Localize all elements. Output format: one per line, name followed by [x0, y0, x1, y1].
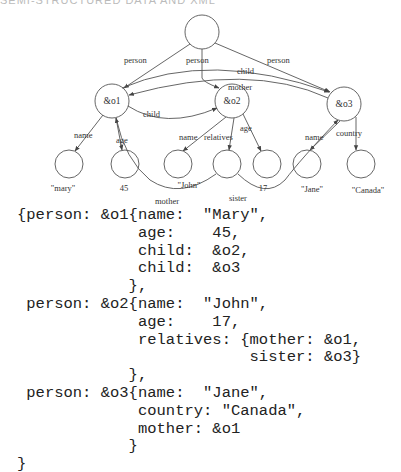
node-o1-label: &o1: [104, 96, 121, 106]
leaf-canada: [347, 150, 375, 178]
label-o2-age: age: [240, 123, 252, 133]
code-line: person: &o3{name: "Jane",: [17, 384, 268, 402]
label-root-o3: person: [267, 55, 290, 65]
label-child-o1-o2: child: [143, 109, 161, 119]
code-line: }: [17, 455, 26, 472]
edge-relatives-sister: [238, 120, 338, 189]
value-45: 45: [120, 183, 129, 193]
edge-o1-o2-child: [128, 106, 217, 119]
code-line: person: &o2{name: "John",: [17, 295, 268, 313]
value-canada: "Canada": [352, 185, 384, 195]
label-o3-name: name: [305, 132, 324, 142]
leaf-john: [164, 150, 192, 178]
code-line: relatives: {mother: &o1,: [17, 331, 361, 349]
oem-code-listing: {person: &o1{name: "Mary", age: 45, chil…: [17, 207, 361, 472]
code-line: sister: &o3}: [17, 348, 361, 366]
label-rel-sister: sister: [229, 193, 247, 203]
oem-graph-diagram: person person person child mother child …: [0, 0, 401, 205]
value-john: "John": [178, 180, 201, 190]
code-line: child: &o2,: [17, 242, 250, 260]
value-jane: "Jane": [301, 184, 323, 194]
value-mary: "mary": [51, 183, 75, 193]
label-o1-age: age: [116, 135, 128, 145]
label-rel-mother: mother: [155, 196, 179, 205]
leaf-relatives: [213, 150, 241, 178]
leaf-mary: [55, 150, 83, 178]
label-child-o1-o3: child: [237, 66, 255, 76]
code-line: },: [17, 366, 147, 384]
label-o2-relatives: relatives: [204, 132, 233, 142]
code-line: },: [17, 277, 147, 295]
code-line: age: 45,: [17, 224, 240, 242]
code-line: mother: &o1: [17, 420, 240, 438]
edge-root-o1: [124, 44, 190, 88]
root-node: [185, 15, 219, 49]
edge-relatives-mother: [116, 118, 216, 189]
code-line: country: "Canada",: [17, 402, 305, 420]
node-o2-label: &o2: [224, 96, 241, 106]
label-o2-name: name: [179, 132, 198, 142]
label-mother-o3-o1: mother: [228, 82, 252, 92]
value-17: 17: [259, 183, 268, 193]
code-line: child: &o3: [17, 259, 240, 277]
label-root-o2: person: [186, 55, 209, 65]
code-line: {person: &o1{name: "Mary",: [17, 206, 268, 224]
label-o1-name: name: [74, 130, 93, 140]
node-o3-label: &o3: [336, 99, 353, 109]
leaf-17: [253, 150, 281, 178]
label-root-o1: person: [124, 55, 147, 65]
code-line: }: [17, 437, 138, 455]
label-o3-country: country: [336, 128, 363, 138]
code-line: age: 17,: [17, 313, 240, 331]
